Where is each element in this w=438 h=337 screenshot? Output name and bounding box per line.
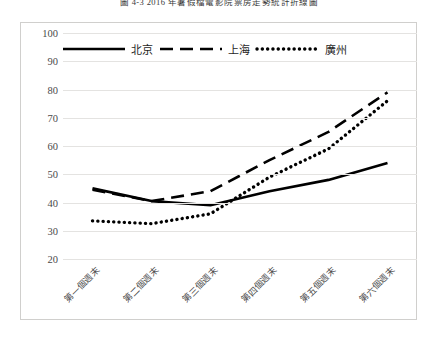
y-axis-tick-label: 100 [24, 28, 58, 39]
gridline [63, 61, 417, 62]
plot-area [63, 33, 417, 259]
gridline [63, 203, 417, 204]
gridline [63, 231, 417, 232]
x-axis-tick-label: 第四個週末 [233, 264, 279, 310]
legend-swatch-dotted [257, 44, 319, 54]
y-axis-tick-label: 90 [24, 56, 58, 67]
y-axis-tick-label: 50 [24, 169, 58, 180]
legend-label: 北京 [131, 41, 153, 57]
gridline [63, 118, 417, 119]
y-axis-tick-label: 20 [24, 254, 58, 265]
gridline [63, 146, 417, 147]
y-axis-tick-label: 80 [24, 84, 58, 95]
gridline [63, 174, 417, 175]
legend-label: 廣州 [325, 41, 347, 57]
gridline [63, 90, 417, 91]
legend-item-北京[interactable]: 北京 [63, 41, 153, 57]
series-line-廣州 [93, 101, 388, 224]
x-axis-tick-label: 第六個週末 [351, 264, 397, 310]
chart-figure: 圖 4-3 2016 年暑假檔電影院票房走勢統計折線圖 100908070605… [0, 0, 438, 337]
y-axis-tick-label: 40 [24, 197, 58, 208]
y-axis-tick-label: 70 [24, 112, 58, 123]
y-axis-tick-label: 30 [24, 225, 58, 236]
gridline [63, 259, 417, 260]
gridline [63, 33, 417, 34]
x-axis-tick-label: 第三個週末 [174, 264, 220, 310]
y-axis: 1009080706050403020 [22, 33, 58, 259]
y-axis-tick-label: 60 [24, 141, 58, 152]
legend-item-廣州[interactable]: 廣州 [257, 41, 347, 57]
chart-title: 圖 4-3 2016 年暑假檔電影院票房走勢統計折線圖 [0, 0, 438, 7]
chart-legend: 北京上海廣州 [63, 40, 363, 58]
legend-swatch-dashed [160, 44, 222, 54]
x-axis-tick-label: 第一個週末 [56, 264, 102, 310]
x-axis: 第一個週末第二個週末第三個週末第四個週末第五個週末第六個週末 [63, 262, 417, 324]
x-axis-tick-label: 第五個週末 [292, 264, 338, 310]
legend-item-上海[interactable]: 上海 [160, 41, 250, 57]
legend-swatch-solid [63, 44, 125, 54]
legend-label: 上海 [228, 41, 250, 57]
x-axis-tick-label: 第二個週末 [115, 264, 161, 310]
